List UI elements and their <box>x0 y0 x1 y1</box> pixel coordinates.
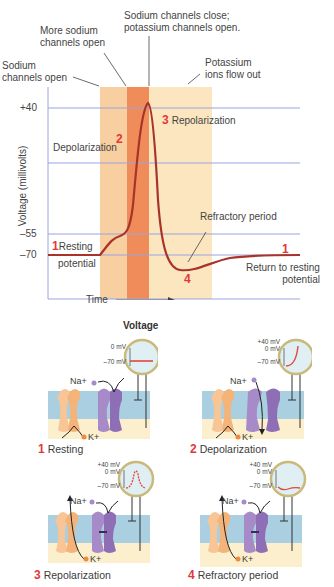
y-tick-55: –55 <box>20 228 37 240</box>
step-number: 4 <box>188 568 195 582</box>
panel-title-text: Depolarization <box>200 443 267 455</box>
panel-repolarization-title: 3Repolarization <box>34 568 111 582</box>
panel-resting: 0 mV –70 mV Na+ K+ <box>48 320 158 450</box>
y-tick-70: –70 <box>20 249 37 261</box>
y-tick-40: +40 <box>20 102 37 114</box>
step1-resting-label-2: potential <box>58 258 96 270</box>
step-number: 2 <box>190 442 197 456</box>
annotation-more-sodium: More sodium channels open <box>40 25 105 49</box>
step-number: 3 <box>34 568 41 582</box>
annotation-channels-close: Sodium channels close; potassium channel… <box>124 10 240 34</box>
k-label: K+ <box>88 432 99 442</box>
na-label: Na+ <box>70 496 87 506</box>
mv-0: 0 mV <box>96 343 126 350</box>
refractory-period-label: Refractory period <box>200 211 277 223</box>
panel-repolarization: +40 mV 0 mV –70 mV Na+ K+ <box>48 455 158 570</box>
action-potential-graph: Sodium channels open More sodium channel… <box>0 0 334 300</box>
k-label: K+ <box>242 432 253 442</box>
mv-0: 0 mV <box>242 468 272 475</box>
na-label: Na+ <box>70 376 87 386</box>
panel-title-text: Resting <box>48 443 84 455</box>
mv-plus40: +40 mV <box>86 461 120 468</box>
mv-plus40: +40 mV <box>238 461 272 468</box>
step-number: 1 <box>38 442 45 456</box>
k-label: K+ <box>242 554 253 564</box>
panel-depolarization: +40 mV 0 mV –70 mV Na+ K+ <box>202 320 312 450</box>
annotation-line: channels open <box>2 72 67 84</box>
k-label: K+ <box>90 554 101 564</box>
panel-illustration <box>48 320 158 445</box>
mv-plus40: +40 mV <box>246 338 280 345</box>
return-to-resting-label: Return to resting potential <box>246 262 320 286</box>
annotation-line: ions flow out <box>205 69 261 81</box>
step-text: Resting <box>59 241 93 252</box>
mv-minus70: –70 mV <box>246 358 280 365</box>
annotation-sodium-open: Sodium channels open <box>2 60 67 84</box>
mv-minus70: –70 mV <box>92 358 126 365</box>
step3-repolarization-label: 3Repolarization <box>162 114 236 127</box>
mv-0: 0 mV <box>250 345 280 352</box>
step-number: 3 <box>162 113 169 127</box>
step-number: 1 <box>52 239 59 253</box>
na-label: Na+ <box>230 376 247 386</box>
annotation-line: More sodium <box>40 25 105 37</box>
step1-return-number: 1 <box>282 242 289 256</box>
annotation-potassium-out: Potassium ions flow out <box>205 57 261 81</box>
panel-title-text: Repolarization <box>44 569 111 581</box>
annotation-line: Return to resting <box>246 262 320 274</box>
mv-0: 0 mV <box>90 468 120 475</box>
annotation-line: Sodium channels close; <box>124 10 240 22</box>
annotation-line: potential <box>246 274 320 286</box>
step-text: Repolarization <box>172 115 236 126</box>
panel-refractory-title: 4Refractory period <box>188 568 278 582</box>
panel-depolarization-title: 2Depolarization <box>190 442 267 456</box>
annotation-line: Sodium <box>2 60 67 72</box>
mv-minus70: –70 mV <box>86 482 120 489</box>
step1-resting-label: 1Resting <box>52 240 93 253</box>
step2-number: 2 <box>116 132 123 146</box>
panel-refractory: +40 mV 0 mV –70 mV Na+ K+ <box>200 455 310 570</box>
na-label: Na+ <box>222 496 239 506</box>
step4-number: 4 <box>184 272 191 286</box>
panel-title-text: Refractory period <box>198 569 279 581</box>
y-axis-label: Voltage (millivolts) <box>17 131 29 241</box>
panel-resting-title: 1Resting <box>38 442 83 456</box>
annotation-line: channels open <box>40 37 105 49</box>
step2-depolarization-label: Depolarization <box>53 142 117 154</box>
x-axis-label: Time <box>86 294 108 306</box>
annotation-line: Potassium <box>205 57 261 69</box>
annotation-line: potassium channels open. <box>124 22 240 34</box>
mv-minus70: –70 mV <box>238 482 272 489</box>
